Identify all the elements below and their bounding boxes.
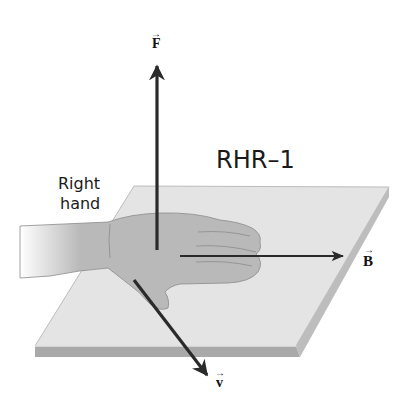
- diagram-canvas: RHR–1 Right hand → F → B → v: [0, 0, 407, 402]
- title-label: RHR–1: [216, 146, 295, 174]
- hand-label-line2: hand: [60, 194, 100, 213]
- hand-label-line1: Right: [58, 174, 100, 193]
- field-label: B: [363, 253, 373, 269]
- force-label: F: [152, 36, 161, 51]
- rhr-diagram: RHR–1 Right hand → F → B → v: [0, 0, 407, 402]
- plate-front-edge: [35, 346, 300, 357]
- velocity-label: v: [216, 375, 223, 390]
